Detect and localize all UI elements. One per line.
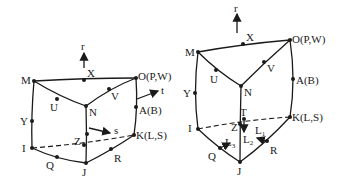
node-J [238,160,242,164]
label-Z: Z [74,135,81,147]
edge-M-Y-I [32,81,34,148]
label-J: J [237,165,242,177]
node-Q [55,155,59,159]
t-axis-arrow [137,91,158,99]
label-L1: L1 [255,124,266,138]
label-N: N [89,106,97,118]
node-A [134,105,138,109]
edge-M-U-N [198,52,241,86]
edge-M-Y-I [196,52,199,129]
s-axis-arrow [89,128,110,133]
label-Y: Y [183,87,191,99]
node-X [241,42,245,46]
label-V: V [111,90,119,102]
label-K: K(L,S) [292,111,323,124]
node-J [84,161,88,165]
label-Z: Z [231,121,238,133]
label-U: U [50,101,58,113]
axis-label-r: r [234,2,238,14]
label-M: M [185,46,195,58]
label-N: N [244,86,252,98]
axis-label-s: s [114,124,118,136]
label-R: R [270,144,278,156]
label-O: O(P,W) [292,33,326,46]
node-A [291,77,295,81]
edge-I-Q-J [32,148,86,163]
label-Q: Q [46,159,54,171]
node-N [84,104,88,108]
label-X: X [246,31,254,43]
node-X [82,78,86,82]
node-Z [82,143,86,147]
node-R [265,139,269,143]
node-Y [30,119,34,123]
node-N [239,84,243,88]
node-M [196,50,200,54]
label-T: T [240,106,247,118]
edge-M-X-O [198,40,290,52]
label-Q: Q [208,150,216,162]
label-V: V [267,62,275,74]
label-K: K(L,S) [136,129,167,142]
node-M [32,79,36,83]
node-I [196,127,200,131]
node-I [30,146,34,150]
axis-label-r: r [81,40,85,52]
label-M: M [21,74,31,86]
left-hexahedron: r t s M X O(P,W) U N V Y A(B) I Q J R K(… [20,40,172,178]
label-A: A(B) [296,74,319,87]
node-mid-NJ [85,132,89,136]
L1-arrow [257,138,266,141]
node-V [262,60,266,64]
label-J: J [82,166,87,178]
label-U: U [210,73,218,85]
label-R: R [114,152,122,164]
axis-label-t: t [161,84,164,96]
label-L3: L3 [225,136,236,150]
right-wedge: r M X O(P,W) U N V Y A(B) I Q J R K(L,S)… [183,2,326,177]
label-A: A(B) [139,104,162,117]
label-O: O(P,W) [138,70,172,83]
node-R [109,147,113,151]
node-Y [193,91,197,95]
label-I: I [22,142,26,154]
label-I: I [188,122,192,134]
edge-M-U-N [34,81,86,106]
label-Y: Y [20,115,28,127]
node-Z [238,122,242,126]
label-X: X [87,67,95,79]
node-Q [218,146,222,150]
element-diagram: r t s M X O(P,W) U N V Y A(B) I Q J R K(… [0,0,345,184]
node-U [214,68,218,72]
label-L2: L2 [243,133,254,147]
